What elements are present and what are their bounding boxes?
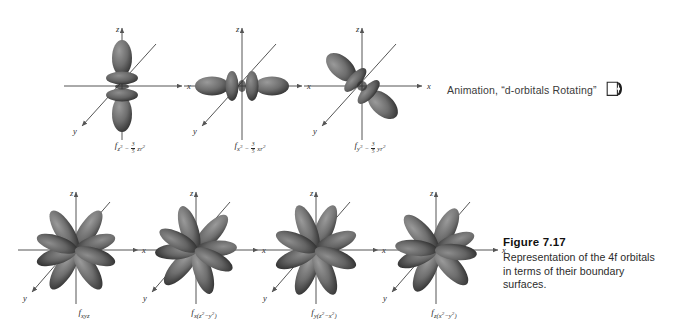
orbital-label-fyz2x2: fy(z2−x2) [254, 307, 394, 319]
figure-caption-text: Representation of the 4f orbitals in ter… [503, 251, 675, 292]
axis-label-z: z [115, 24, 120, 34]
axis-label-y: y [22, 293, 27, 303]
axis-label-x: x [426, 81, 431, 91]
orbital-fxz2y2: x y z fx(z2−y2) [134, 188, 274, 310]
axis-label-y: y [382, 293, 387, 303]
orbital-fx3: x y z fx3 − 35 xr2 [180, 22, 320, 142]
axis-label-y: y [312, 126, 317, 136]
orbital-fxyz: x y z fxyz [14, 188, 154, 310]
orbital-axes-fzx2y2: x y z [374, 188, 514, 310]
orbital-label-fxz2y2: fx(z2−y2) [134, 307, 274, 319]
axis-label-z: z [69, 188, 74, 198]
axis-label-y: y [192, 126, 197, 136]
orbital-axes-fx3: x y z [180, 22, 320, 142]
figure-caption-block: Figure 7.17 Representation of the 4f orb… [503, 236, 675, 292]
orbital-label-fz3: fz3 − 35 zr2 [60, 140, 200, 154]
orbital-fz3: x y z fz3 − 35 zr2 [60, 22, 200, 142]
figure-caption-line-2: in terms of their boundary [503, 265, 624, 277]
orbital-axes-fy3: x y z [300, 22, 440, 142]
figure-caption-line-3: surfaces. [503, 278, 546, 290]
axis-label-y: y [72, 126, 77, 136]
cd-media-icon [605, 79, 625, 101]
orbital-axes-fxyz: x y z [14, 188, 154, 310]
animation-callout[interactable]: Animation, “d-orbitals Rotating” [447, 79, 625, 101]
axis-label-z: z [355, 24, 360, 34]
axis-label-y: y [142, 293, 147, 303]
orbital-label-fxyz: fxyz [14, 307, 154, 319]
axis-label-z: z [309, 188, 314, 198]
orbital-axes-fz3: x y z [60, 22, 200, 142]
axis-label-y: y [262, 293, 267, 303]
axis-label-z: z [189, 188, 194, 198]
axis-label-z: z [235, 24, 240, 34]
orbital-label-fy3: fy3 − 35 yr2 [300, 140, 440, 154]
figure-number: Figure 7.17 [503, 236, 675, 248]
animation-label: Animation, “d-orbitals Rotating” [447, 84, 597, 96]
orbital-fy3: x y z fy3 − 35 yr2 [300, 22, 440, 142]
orbital-fyz2x2: x y z fy(z2−x2) [254, 188, 394, 310]
orbital-label-fzx2y2: fz(x2−y2) [374, 307, 514, 319]
axis-label-z: z [429, 188, 434, 198]
orbital-axes-fyz2x2: x y z [254, 188, 394, 310]
orbital-fzx2y2: x y z fz(x2−y2) [374, 188, 514, 310]
figure-caption-line-1: Representation of the 4f orbitals [503, 251, 655, 263]
orbital-axes-fxz2y2: x y z [134, 188, 274, 310]
orbital-label-fx3: fx3 − 35 xr2 [180, 140, 320, 154]
